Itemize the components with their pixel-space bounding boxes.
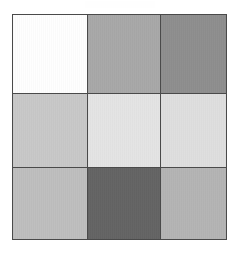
grid-cell-r1c1: r1c1 [13,15,87,93]
grid-cell-r1c3: r1c3 [161,15,227,93]
grayscale-patch-grid: r1c1 r1c2 r1c3 r2c1 r2c2 r2c3 r3c1 r3c2 … [12,14,227,240]
grid-cell-r3c3: r3c3 [161,168,227,240]
grid-cell-r2c2: r2c2 [88,94,160,167]
grid-cell-r1c2: r1c2 [88,15,160,93]
grid-cell-r2c3: r2c3 [161,94,227,167]
grid-cell-r3c2: r3c2 [88,168,160,240]
figure-canvas: r1c1 r1c2 r1c3 r2c1 r2c2 r2c3 r3c1 r3c2 … [0,0,239,254]
scan-artifact-strip [85,1,155,8]
grid-cell-r3c1: r3c1 [13,168,87,240]
grid-cell-r2c1: r2c1 [13,94,87,167]
